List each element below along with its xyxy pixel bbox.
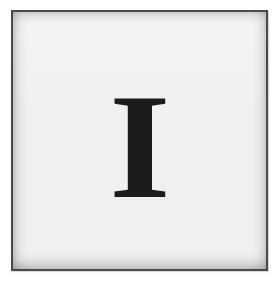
tile-letter: I <box>8 71 273 221</box>
letter-tile: I <box>11 10 268 271</box>
